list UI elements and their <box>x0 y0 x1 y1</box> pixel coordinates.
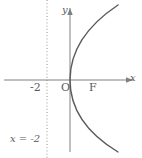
directrix-equation-label: x = -2 <box>10 134 40 144</box>
x-axis-label: x <box>130 73 136 83</box>
y-axis-arrowhead <box>67 8 72 15</box>
y-axis-label: y <box>62 5 68 15</box>
origin-label: O <box>61 82 70 93</box>
x-tick-label-neg2: -2 <box>30 82 41 93</box>
parabola-figure: -2 O F x y x = -2 <box>0 0 142 158</box>
focus-label: F <box>89 82 97 93</box>
parabola-curve <box>70 5 118 152</box>
